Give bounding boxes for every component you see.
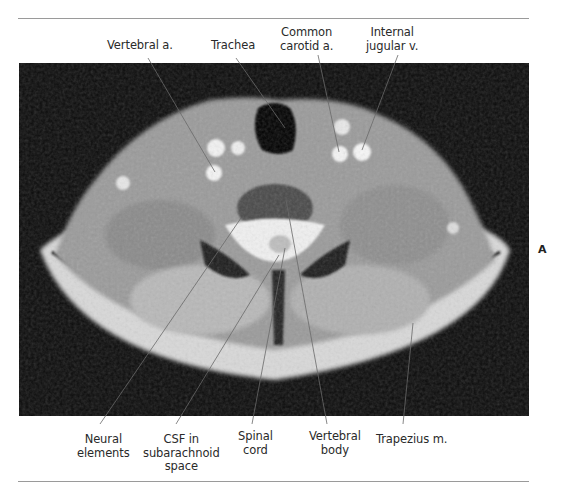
label-trapezius: Trapezius m. [376,433,447,447]
label-spinal-cord: Spinal cord [238,430,273,457]
label-vertebral-artery: Vertebral a. [107,39,173,53]
label-internal-jugular: Internal jugular v. [366,26,418,53]
label-neural-elements: Neural elements [77,433,130,460]
mri-image [19,63,529,416]
label-vertebral-body: Vertebral body [309,430,361,457]
label-csf: CSF in subarachnoid space [143,433,220,474]
label-common-carotid: Common carotid a. [280,26,333,53]
panel-letter: A [538,243,547,256]
mri-figure [0,0,573,497]
label-trachea: Trachea [211,39,255,53]
bottom-rule [18,481,529,482]
